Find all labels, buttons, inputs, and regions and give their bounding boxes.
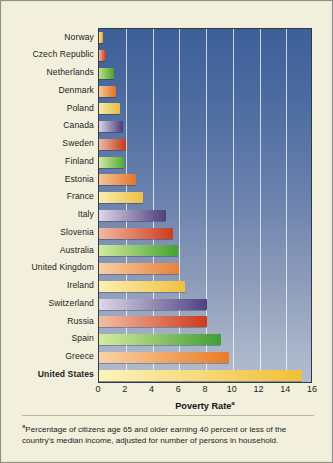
category-label: Ireland xyxy=(1,280,94,290)
bar xyxy=(99,121,123,132)
bar-series xyxy=(99,29,311,382)
category-label: Denmark xyxy=(1,85,94,95)
bar-row xyxy=(99,370,313,381)
x-tick-label: 14 xyxy=(280,384,290,394)
category-label: Australia xyxy=(1,245,94,255)
bar xyxy=(99,370,302,381)
category-label: Poland xyxy=(1,103,94,113)
bar xyxy=(99,245,178,256)
bar xyxy=(99,316,207,327)
category-label: Greece xyxy=(1,351,94,361)
category-axis-labels: NorwayCzech RepublicNetherlandsDenmarkPo… xyxy=(1,28,94,383)
bar-row xyxy=(99,210,313,221)
bar-row xyxy=(99,157,313,168)
x-tick-label: 10 xyxy=(227,384,237,394)
bar-row xyxy=(99,50,313,61)
category-label: United Kingdom xyxy=(1,262,94,272)
footnote-container: aPercentage of citizens age 65 and older… xyxy=(22,415,314,455)
category-label: Norway xyxy=(1,32,94,42)
category-label: Slovenia xyxy=(1,227,94,237)
x-axis-title-text: Poverty Rate xyxy=(175,401,231,411)
category-label: Netherlands xyxy=(1,67,94,77)
x-axis-title-superscript: a xyxy=(231,399,234,406)
bar xyxy=(99,86,116,97)
bar-row xyxy=(99,334,313,345)
category-label: Spain xyxy=(1,333,94,343)
category-label: Estonia xyxy=(1,174,94,184)
bar xyxy=(99,263,179,274)
bar-row xyxy=(99,32,313,43)
footnote-text: Percentage of citizens age 65 and older … xyxy=(22,425,286,445)
bar-row xyxy=(99,352,313,363)
bar xyxy=(99,192,143,203)
footnote: aPercentage of citizens age 65 and older… xyxy=(22,421,314,446)
bar-row xyxy=(99,139,313,150)
category-label: United States xyxy=(1,369,94,379)
category-label: Sweden xyxy=(1,138,94,148)
x-tick-label: 8 xyxy=(202,384,207,394)
category-label: Switzerland xyxy=(1,298,94,308)
bar xyxy=(99,32,103,43)
category-label: Canada xyxy=(1,120,94,130)
bar-row xyxy=(99,68,313,79)
bar-row xyxy=(99,281,313,292)
category-label: Russia xyxy=(1,316,94,326)
bar-row xyxy=(99,192,313,203)
bar-row xyxy=(99,263,313,274)
bar-row xyxy=(99,245,313,256)
bar xyxy=(99,299,207,310)
category-label: Finland xyxy=(1,156,94,166)
x-tick-label: 6 xyxy=(176,384,181,394)
bar xyxy=(99,50,106,61)
bar xyxy=(99,103,120,114)
x-tick-label: 16 xyxy=(307,384,317,394)
bar xyxy=(99,334,221,345)
x-tick-label: 4 xyxy=(149,384,154,394)
bar xyxy=(99,281,185,292)
bar-row xyxy=(99,86,313,97)
x-axis-title: Poverty Ratea xyxy=(98,399,312,411)
bar-row xyxy=(99,103,313,114)
category-label: Czech Republic xyxy=(1,49,94,59)
bar-row xyxy=(99,316,313,327)
plot-area xyxy=(98,28,312,383)
bar xyxy=(99,157,124,168)
x-axis-ticks: 0246810121416 xyxy=(98,384,312,398)
x-tick-label: 12 xyxy=(253,384,263,394)
bar xyxy=(99,228,173,239)
category-label: France xyxy=(1,191,94,201)
bar-row xyxy=(99,121,313,132)
bar xyxy=(99,174,136,185)
bar xyxy=(99,352,229,363)
x-tick-label: 2 xyxy=(122,384,127,394)
bar xyxy=(99,68,114,79)
x-tick-label: 0 xyxy=(95,384,100,394)
bar xyxy=(99,210,166,221)
bar-row xyxy=(99,228,313,239)
chart-figure: NorwayCzech RepublicNetherlandsDenmarkPo… xyxy=(0,0,333,463)
bar-row xyxy=(99,299,313,310)
bar-row xyxy=(99,174,313,185)
bar xyxy=(99,139,126,150)
category-label: Italy xyxy=(1,209,94,219)
